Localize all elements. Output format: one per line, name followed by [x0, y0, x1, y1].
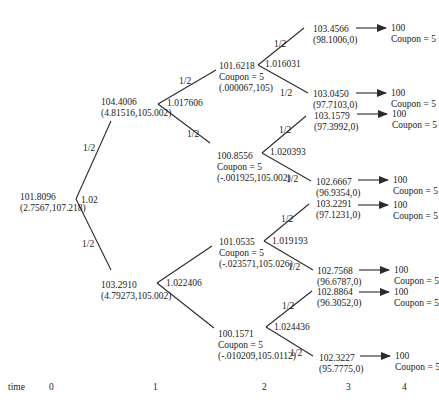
node-text: 102.6667: [316, 177, 360, 188]
node-text: (-.010209,105.0112): [218, 351, 296, 362]
probability-label: 1/2: [274, 39, 286, 50]
node-text: Coupon = 5: [219, 248, 293, 259]
node-text: Coupon = 5: [219, 72, 273, 83]
leaf-node: 102.8864(96.3052,0): [317, 287, 361, 309]
root-node: 101.8096 (2.7567,107.218): [20, 192, 86, 214]
rate-label: 1.016031: [265, 59, 301, 70]
time-tick: 4: [402, 382, 407, 393]
node-text: Coupon = 5: [391, 34, 436, 45]
leaf-node: 103.0450(97.7103,0): [313, 89, 357, 111]
node-text: 100: [394, 287, 439, 298]
payoff-node: 100Coupon = 5: [393, 175, 438, 197]
node-text: (4.81516,105.002): [101, 108, 171, 119]
leaf-node: 103.4566(98.1006,0): [313, 24, 357, 46]
payoff-node: 100Coupon = 5: [394, 287, 439, 309]
probability-label: 1/2: [290, 348, 302, 359]
payoff-node: 100Coupon = 5: [395, 351, 439, 373]
node-text: 100: [393, 200, 438, 211]
root-value: 101.8096: [20, 192, 86, 203]
payoff-node: 100Coupon = 5: [392, 109, 437, 131]
leaf-node: 102.6667(96.9354,0): [316, 177, 360, 199]
node-text: (97.3992,0): [314, 122, 358, 133]
node-text: 103.0450: [313, 89, 357, 100]
probability-label: 1/2: [288, 262, 300, 273]
tree-node-t1-down: 103.2910(4.79273,105.002): [101, 280, 171, 302]
payoff-node: 100Coupon = 5: [394, 265, 439, 287]
rate-label: 1.019193: [272, 236, 308, 247]
probability-label: 1/2: [286, 174, 298, 185]
probability-label: 1/2: [179, 76, 191, 87]
node-text: Coupon = 5: [217, 162, 291, 173]
node-text: Coupon = 5: [395, 362, 439, 373]
leaf-node: 103.2291(97.1231,0): [316, 199, 360, 221]
root-pair: (2.7567,107.218): [20, 203, 86, 214]
node-text: 104.4006: [101, 97, 171, 108]
node-text: Coupon = 5: [393, 186, 438, 197]
root-rate: 1.02: [81, 195, 98, 206]
node-text: (96.9354,0): [316, 188, 360, 199]
probability-label: 1/2: [281, 214, 293, 225]
node-text: 100: [394, 265, 439, 276]
node-text: (.000067,105): [219, 83, 273, 94]
leaf-node: 102.3227(95.7775,0): [319, 353, 363, 375]
payoff-node: 100Coupon = 5: [391, 23, 436, 45]
probability-label: 1/2: [279, 125, 291, 136]
leaf-node: 103.1579(97.3992,0): [314, 111, 358, 133]
time-tick: 1: [153, 382, 158, 393]
time-tick: 3: [346, 382, 351, 393]
node-text: 103.2291: [316, 199, 360, 210]
node-text: (4.79273,105.002): [101, 291, 171, 302]
rate-label: 1.024436: [274, 322, 310, 333]
rate-label: 1.020393: [270, 147, 306, 158]
interest-rate-tree-diagram: 101.8096 (2.7567,107.218) 1.02 104.4006(…: [0, 0, 439, 407]
node-text: 100: [392, 109, 437, 120]
node-text: (-.001925,105.002): [217, 173, 291, 184]
node-text: Coupon = 5: [392, 120, 437, 131]
probability-label: 1/2: [82, 239, 94, 250]
node-text: Coupon = 5: [394, 276, 439, 287]
node-text: (96.3052,0): [317, 298, 361, 309]
node-text: 100: [393, 175, 438, 186]
node-text: 103.4566: [313, 24, 357, 35]
probability-label: 1/2: [187, 129, 199, 140]
time-tick: 0: [49, 382, 54, 393]
leaf-node: 102.7568(96.6787,0): [317, 266, 361, 288]
node-text: 103.1579: [314, 111, 358, 122]
tree-node-t1-up: 104.4006(4.81516,105.002): [101, 97, 171, 119]
node-text: (97.1231,0): [316, 210, 360, 221]
payoff-node: 100Coupon = 5: [391, 88, 436, 110]
tree-edge: [76, 121, 111, 199]
node-text: 103.2910: [101, 280, 171, 291]
probability-label: 1/2: [282, 301, 294, 312]
tree-node-t2-dd: 100.1571Coupon = 5(-.010209,105.0112): [218, 329, 296, 362]
node-text: 100: [391, 23, 436, 34]
node-text: Coupon = 5: [394, 298, 439, 309]
probability-label: 1/2: [83, 143, 95, 154]
node-text: Coupon = 5: [218, 340, 296, 351]
probability-label: 1/2: [280, 88, 292, 99]
time-axis-label: time: [8, 382, 25, 393]
node-text: 100: [391, 88, 436, 99]
node-text: (-.023571,105.026): [219, 259, 293, 270]
node-text: 102.8864: [317, 287, 361, 298]
time-tick: 2: [262, 382, 267, 393]
node-text: Coupon = 5: [393, 211, 438, 222]
node-text: 102.7568: [317, 266, 361, 277]
node-text: 100: [395, 351, 439, 362]
node-text: 102.3227: [319, 353, 363, 364]
payoff-node: 100Coupon = 5: [393, 200, 438, 222]
node-text: (97.7103,0): [313, 100, 357, 111]
rate-label: 1.017606: [167, 98, 203, 109]
node-text: (95.7775,0): [319, 364, 363, 375]
node-text: (98.1006,0): [313, 35, 357, 46]
rate-label: 1.022406: [166, 278, 202, 289]
